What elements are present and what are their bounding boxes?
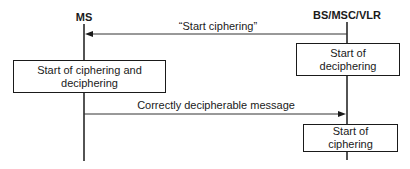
activity-line: Start of bbox=[320, 47, 377, 60]
message-start-ciphering-label: “Start ciphering” bbox=[179, 20, 257, 32]
activity-line: ciphering bbox=[328, 138, 373, 151]
activity-line: Start of bbox=[328, 125, 373, 138]
activity-line: deciphering bbox=[320, 60, 377, 73]
activity-start-of-ciphering: Start of ciphering bbox=[303, 124, 398, 152]
message-decipherable-label: Correctly decipherable message bbox=[137, 99, 295, 111]
activity-start-of-deciphering: Start of deciphering bbox=[296, 43, 400, 76]
participant-bs-label: BS/MSC/VLR bbox=[313, 9, 381, 21]
arrowhead-right-icon bbox=[338, 111, 346, 117]
activity-line: Start of ciphering and bbox=[37, 64, 142, 77]
activity-line: deciphering bbox=[37, 77, 142, 90]
arrowhead-left-icon bbox=[85, 31, 93, 37]
activity-start-of-ciphering-and-deciphering: Start of ciphering and deciphering bbox=[13, 60, 166, 93]
sequence-diagram: MS BS/MSC/VLR “Start ciphering” Correctl… bbox=[0, 0, 410, 169]
participant-ms-label: MS bbox=[76, 11, 93, 23]
